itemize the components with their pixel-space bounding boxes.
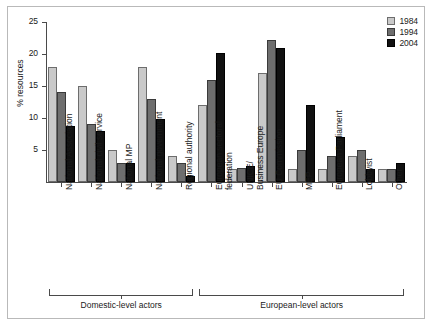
bar	[198, 105, 207, 182]
legend-swatch-icon	[387, 39, 395, 47]
y-tick-label: 5	[33, 144, 38, 154]
bar	[348, 156, 357, 182]
bar	[306, 105, 315, 182]
y-tick-label: 20	[29, 48, 38, 58]
bar-group	[288, 22, 315, 182]
category-label: European Parliament	[335, 110, 345, 190]
legend-swatch-icon	[387, 17, 395, 25]
category-label: National Association	[65, 113, 75, 190]
bar	[378, 169, 387, 182]
legend: 198419942004	[387, 16, 418, 49]
x-tick-mark	[181, 183, 182, 187]
bar	[288, 169, 297, 182]
x-tick-mark	[121, 183, 122, 187]
x-tick-mark	[61, 183, 62, 187]
category-label: Lobbyist	[365, 158, 375, 190]
x-tick-mark	[242, 183, 243, 187]
bar	[48, 67, 57, 182]
x-tick-mark	[91, 183, 92, 187]
legend-label: 2004	[399, 38, 418, 48]
category-label: National civil service	[95, 113, 105, 190]
x-tick-mark	[272, 183, 273, 187]
legend-label: 1984	[399, 16, 418, 26]
x-tick-mark	[211, 183, 212, 187]
category-label: Regional authority	[185, 121, 195, 190]
legend-item: 1994	[387, 27, 418, 37]
y-tick-label: 25	[29, 16, 38, 26]
bar	[138, 67, 147, 182]
y-axis-title: % resources	[15, 38, 25, 128]
category-label: National government	[155, 112, 165, 190]
bar	[318, 169, 327, 182]
category-label: MEP	[305, 172, 315, 190]
x-tick-mark	[302, 183, 303, 187]
x-tick-mark	[392, 183, 393, 187]
category-label: European sectoral federation	[215, 121, 234, 190]
group-bracket-tick	[302, 295, 303, 299]
category-label: UNICE/ Business Europe	[246, 126, 265, 190]
group-bracket-tick	[121, 295, 122, 299]
legend-swatch-icon	[387, 28, 395, 36]
legend-item: 2004	[387, 38, 418, 48]
chart-figure: % resources 510152025 National Associati…	[0, 0, 432, 334]
x-tick-mark	[362, 183, 363, 187]
bar	[168, 156, 177, 182]
x-tick-mark	[151, 183, 152, 187]
group-bracket-label: European-level actors	[199, 300, 404, 310]
category-label: National MP	[125, 144, 135, 190]
legend-label: 1994	[399, 27, 418, 37]
category-label: Other	[395, 169, 405, 190]
category-label: EU Commission	[275, 129, 285, 190]
group-bracket-label: Domestic-level actors	[49, 300, 193, 310]
y-tick-label: 10	[29, 112, 38, 122]
bar	[108, 150, 117, 182]
y-tick-label: 15	[29, 80, 38, 90]
x-tick-mark	[332, 183, 333, 187]
bar	[78, 86, 87, 182]
legend-item: 1984	[387, 16, 418, 26]
